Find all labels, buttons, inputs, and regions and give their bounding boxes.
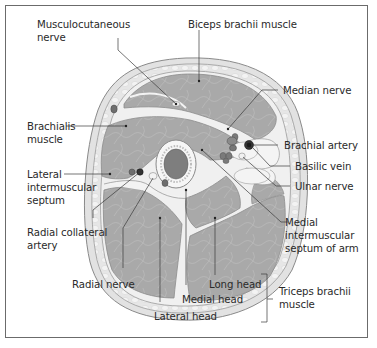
label-radial-nerve: Radial nerve xyxy=(72,278,135,291)
label-radial-collateral-artery: Radial collateral artery xyxy=(27,226,107,252)
label-lateral-intermuscular-septum: Lateral intermuscular septum xyxy=(27,168,96,207)
label-ulnar-nerve: Ulnar nerve xyxy=(295,180,354,193)
label-brachialis-muscle: Brachialis muscle xyxy=(27,120,76,146)
label-triceps-brachii-muscle: Triceps brachii muscle xyxy=(279,285,351,311)
humerus-bone xyxy=(156,140,196,188)
label-medial-head: Medial head xyxy=(182,293,243,306)
label-medial-intermuscular-septum: Medial intermuscular septum of arm xyxy=(285,216,359,255)
label-basilic-vein: Basilic vein xyxy=(295,160,351,173)
label-brachial-artery: Brachial artery xyxy=(284,139,358,152)
label-biceps-brachii-muscle: Biceps brachii muscle xyxy=(188,18,297,31)
label-median-nerve: Median nerve xyxy=(283,84,351,97)
label-long-head: Long head xyxy=(209,278,261,291)
label-lateral-head: Lateral head xyxy=(154,310,217,323)
label-musculocutaneous-nerve: Musculocutaneous nerve xyxy=(37,18,130,44)
